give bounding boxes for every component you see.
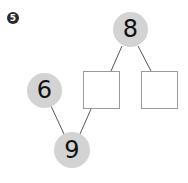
edge-top-to-left-box [111, 46, 122, 71]
answer-box-right[interactable] [141, 71, 178, 109]
node-top: 8 [113, 12, 148, 47]
node-left: 6 [27, 73, 62, 108]
edge-top-to-right-box [138, 46, 151, 71]
answer-box-left[interactable] [83, 71, 120, 109]
problem-number-badge: 5 [7, 12, 19, 24]
edge-box-to-9 [80, 109, 91, 134]
node-bottom: 9 [54, 132, 90, 168]
edge-6-to-9 [51, 106, 64, 134]
